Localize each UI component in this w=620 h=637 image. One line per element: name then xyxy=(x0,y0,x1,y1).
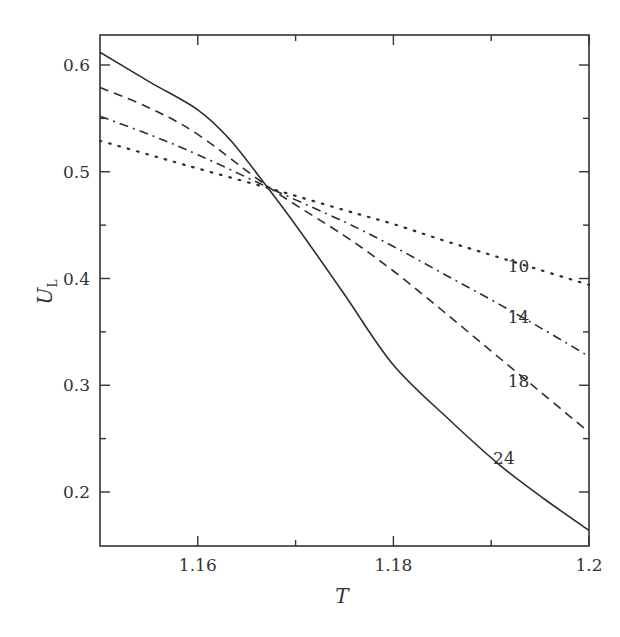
series-line-24 xyxy=(100,52,589,530)
svg-text:UL: UL xyxy=(33,280,60,305)
x-tick-label: 1.18 xyxy=(374,555,412,575)
y-tick-label: 0.5 xyxy=(63,162,90,182)
y-axis-title-main: U xyxy=(33,286,57,304)
series-layer xyxy=(100,52,589,530)
series-label-10: 10 xyxy=(508,256,530,276)
axes-border xyxy=(100,35,589,546)
x-tick-label: 1.16 xyxy=(179,555,217,575)
x-tick-label: 1.2 xyxy=(575,555,602,575)
y-axis-title: UL xyxy=(33,280,60,305)
y-tick-label: 0.4 xyxy=(63,269,90,289)
y-tick-label: 0.3 xyxy=(63,375,90,395)
axes-frame xyxy=(100,35,589,546)
y-tick-label: 0.6 xyxy=(63,55,90,75)
axis-ticks xyxy=(100,35,589,546)
y-axis-title-sub: L xyxy=(46,280,60,288)
series-label-14: 14 xyxy=(508,307,530,327)
chart-canvas: 1.161.181.20.20.30.40.50.6 10141824 T UL xyxy=(0,0,620,637)
y-tick-label: 0.2 xyxy=(63,482,90,502)
x-axis-title: T xyxy=(335,584,350,608)
series-label-24: 24 xyxy=(493,448,515,468)
series-labels: 10141824 xyxy=(493,256,529,468)
series-label-18: 18 xyxy=(508,371,530,391)
